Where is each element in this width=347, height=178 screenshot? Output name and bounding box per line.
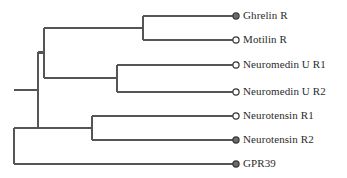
leaf-marker-open	[233, 62, 239, 68]
leaf-label: Ghrelin R	[243, 10, 288, 21]
leaf-marker-filled	[233, 13, 239, 19]
leaf-marker-open	[233, 37, 239, 43]
leaf-label: Neurotensin R1	[243, 110, 314, 121]
leaf-label: Neuromedin U R1	[243, 59, 326, 70]
leaf-marker-open	[233, 89, 239, 95]
leaf-marker-filled	[233, 137, 239, 143]
leaf-label: Motilin R	[243, 34, 287, 45]
leaf-label: Neuromedin U R2	[243, 86, 326, 97]
leaf-label: Neurotensin R2	[243, 134, 314, 145]
phylogenetic-tree-figure: Ghrelin RMotilin RNeuromedin U R1Neurome…	[0, 0, 347, 178]
leaf-marker-open	[233, 113, 239, 119]
tree-branch-group	[14, 16, 236, 164]
leaf-label: GPR39	[243, 158, 276, 169]
leaf-marker-filled	[233, 161, 239, 167]
tree-marker-group	[233, 13, 239, 167]
